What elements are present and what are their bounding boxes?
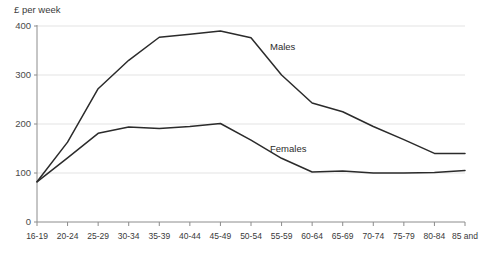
x-axis-tick-label: 40-44 (179, 231, 201, 241)
y-axis-tick-label: 200 (5, 118, 31, 129)
x-axis-tick-label: 20-24 (57, 231, 79, 241)
gridlines (37, 26, 465, 173)
series-label-males: Males (270, 41, 295, 52)
x-axis-tick-label: 30-34 (118, 231, 140, 241)
x-axis-tick-label: 50-54 (240, 231, 262, 241)
x-axis-tick-label: 16-19 (26, 231, 48, 241)
x-axis-tick-label: 55-59 (271, 231, 293, 241)
y-axis-tick-label: 400 (5, 20, 31, 31)
x-axis-tick-label: 35-39 (148, 231, 170, 241)
x-axis-tick-label: 80-84 (424, 231, 446, 241)
y-axis-tick-label: 0 (5, 216, 31, 227)
chart-canvas (0, 0, 492, 255)
series-label-females: Females (270, 143, 306, 154)
x-axis-tick-label: 70-74 (362, 231, 384, 241)
x-axis-tick-label: 25-29 (87, 231, 109, 241)
x-axis-tick-label: 60-64 (301, 231, 323, 241)
y-axis-tick-label: 100 (5, 167, 31, 178)
series-line-males (37, 31, 465, 182)
x-axis-tick-label: 65-69 (332, 231, 354, 241)
line-chart: £ per week 0100200300400 16-1920-2425-29… (0, 0, 492, 255)
x-axis-tick-label: 75-79 (393, 231, 415, 241)
x-axis-ticks (37, 222, 465, 226)
y-axis-tick-label: 300 (5, 69, 31, 80)
data-series (37, 31, 465, 182)
x-axis-tick-label: 85 and (452, 231, 478, 241)
x-axis-tick-label: 45-49 (210, 231, 232, 241)
